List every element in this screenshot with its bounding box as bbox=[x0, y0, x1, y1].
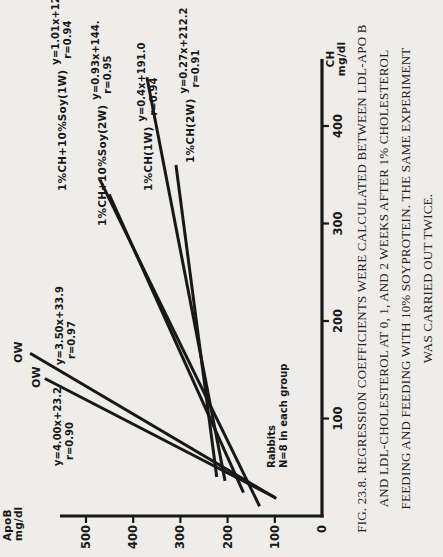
series-name: 1%CH+10%Soy(1W) bbox=[56, 70, 68, 191]
equation-text: y=0.4x+191.0 bbox=[136, 43, 148, 122]
figure-caption: FIG. 23.8. REGRESSION COEFFICIENTS WERE … bbox=[351, 0, 439, 557]
series-name-1: OW bbox=[31, 366, 43, 388]
correlation-text: r=0.94 bbox=[62, 0, 74, 65]
equation-block: y=4.00x+23.2r=0.90 bbox=[52, 387, 75, 466]
correlation-text: r=0.90 bbox=[64, 387, 76, 466]
equation-block: y=3.50x+33.9r=0.97 bbox=[54, 286, 77, 365]
sample-annotation: Rabbits N=8 in each group bbox=[266, 363, 290, 468]
y-tick-label-0: 0 bbox=[315, 525, 329, 555]
series-label-5: 1%CH(2W)y=0.27x+212.2r=0.91 bbox=[178, 8, 201, 163]
x-tick-label-300: 300 bbox=[331, 209, 345, 239]
series-label-4: 1%CH(1W)y=0.4x+191.0r=0.94 bbox=[136, 43, 159, 191]
x-tick-label-100: 100 bbox=[331, 404, 345, 434]
y-tick-label-400: 400 bbox=[126, 525, 140, 555]
regression-line-5 bbox=[176, 165, 217, 477]
equation-block: y=1.01x+122.1r=0.94 bbox=[50, 0, 73, 65]
y-axis-label: ApoB mg/dl bbox=[2, 507, 24, 541]
correlation-text: r=0.95 bbox=[102, 21, 114, 100]
regression-line-1 bbox=[45, 379, 275, 498]
caption-line-4: WAS CARRIED OUT TWICE. bbox=[417, 0, 439, 557]
series-name: 1%CH+10%Soy(2W) bbox=[96, 105, 108, 226]
y-tick-label-300: 300 bbox=[173, 525, 187, 555]
y-axis-label-line2: mg/dl bbox=[13, 507, 24, 541]
correlation-text: r=0.94 bbox=[148, 43, 160, 122]
equation-text: y=4.00x+23.2 bbox=[52, 387, 64, 466]
series-name: 1%CH(2W) bbox=[184, 99, 196, 163]
equation-text: y=3.50x+33.9 bbox=[54, 286, 66, 365]
caption-line-3: FEEDING AND FEEDING WITH 10% SOYPROTEIN.… bbox=[395, 0, 417, 557]
x-tick-label-400: 400 bbox=[331, 111, 345, 141]
annotation-line1: Rabbits bbox=[266, 363, 278, 468]
correlation-text: r=0.97 bbox=[66, 286, 78, 365]
y-tick-label-200: 200 bbox=[221, 525, 235, 555]
equation-text: y=0.93x+144. bbox=[90, 21, 102, 100]
x-tick-label-200: 200 bbox=[331, 306, 345, 336]
x-axis-label: CH mg/dl bbox=[325, 35, 347, 83]
caption-line-1: FIG. 23.8. REGRESSION COEFFICIENTS WERE … bbox=[351, 0, 373, 557]
correlation-text: r=0.91 bbox=[190, 8, 202, 94]
x-axis-label-line2: mg/dl bbox=[336, 35, 347, 83]
caption-line-2: AND LDL-CHOLESTEROL AT 0, 1, AND 2 WEEKS… bbox=[373, 0, 395, 557]
y-tick-label-100: 100 bbox=[268, 525, 282, 555]
y-tick-label-500: 500 bbox=[79, 525, 93, 555]
figure-stage: ApoB mg/dl CH mg/dl Rabbits N=8 in each … bbox=[0, 0, 443, 557]
series-label-2: 1%CH+10%Soy(1W)y=1.01x+122.1r=0.94 bbox=[50, 0, 73, 191]
annotation-line2: N=8 in each group bbox=[278, 363, 290, 468]
equation-block: y=0.4x+191.0r=0.94 bbox=[136, 43, 159, 122]
equation-text: y=0.27x+212.2 bbox=[178, 8, 190, 94]
scanned-figure-page: ApoB mg/dl CH mg/dl Rabbits N=8 in each … bbox=[0, 0, 443, 557]
equation-block: y=0.93x+144.r=0.95 bbox=[90, 21, 113, 100]
series-label-3: 1%CH+10%Soy(2W)y=0.93x+144.r=0.95 bbox=[90, 21, 113, 226]
equation-text: y=1.01x+122.1 bbox=[50, 0, 62, 65]
series-name: 1%CH(1W) bbox=[142, 127, 154, 191]
series-name-0: OW bbox=[13, 341, 25, 363]
equation-block: y=0.27x+212.2r=0.91 bbox=[178, 8, 201, 94]
